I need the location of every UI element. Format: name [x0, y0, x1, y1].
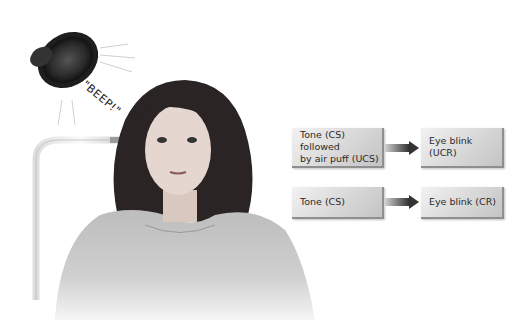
response-box-2: Eye blink (CR) — [421, 187, 504, 219]
arrow-right-icon — [385, 195, 421, 209]
stimulus-line: Tone (CS) followed — [300, 129, 382, 153]
stimulus-label: Tone (CS) — [300, 196, 345, 208]
conditioning-diagram: "BEEP!" Tone (CS) followed by air puff (… — [0, 0, 527, 336]
stimulus-line: by air puff (UCS) — [300, 153, 382, 165]
stimulus-box-2: Tone (CS) — [292, 187, 384, 219]
illustration — [0, 0, 527, 336]
response-label: Eye blink (CR) — [429, 196, 496, 208]
stimulus-box-1: Tone (CS) followed by air puff (UCS) — [292, 128, 384, 168]
response-label: Eye blink (UCR) — [429, 135, 502, 159]
arrow-right-icon — [385, 141, 421, 155]
response-box-1: Eye blink (UCR) — [421, 128, 504, 168]
